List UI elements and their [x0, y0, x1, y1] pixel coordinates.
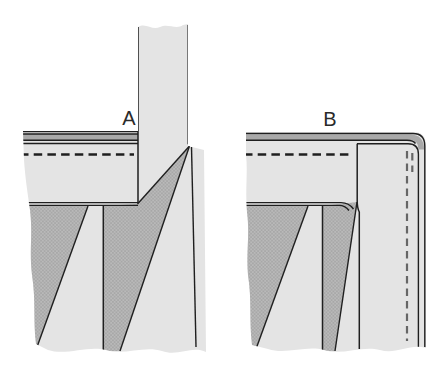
- waistband-binding-a: [20, 134, 138, 140]
- panel-label-a: A: [122, 107, 136, 129]
- diagram-canvas: A B: [0, 0, 432, 382]
- underlay-strip-right-edge-a: [188, 25, 189, 146]
- sewing-diagram: A B: [0, 0, 432, 382]
- panel-a: A: [0, 0, 216, 382]
- panel-b: B: [216, 0, 432, 382]
- panel-label-b: B: [323, 108, 336, 130]
